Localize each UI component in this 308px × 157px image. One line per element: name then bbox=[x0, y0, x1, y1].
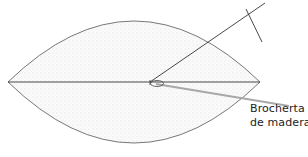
skewer-label-line1: Brocherta bbox=[250, 103, 305, 115]
skewer-label-line2: de madera bbox=[250, 117, 308, 129]
cross-stroke bbox=[246, 9, 262, 42]
kite-diagram bbox=[0, 0, 308, 157]
